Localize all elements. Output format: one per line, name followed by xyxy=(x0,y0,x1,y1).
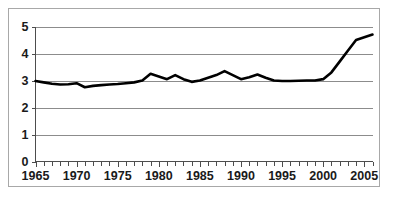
x-tick-label-1985: 1985 xyxy=(186,169,214,183)
x-tick-label-1995: 1995 xyxy=(268,169,296,183)
x-tick-label-1990: 1990 xyxy=(227,169,255,183)
y-tick-label-4: 4 xyxy=(22,47,29,61)
x-tick-label-2000: 2000 xyxy=(309,169,337,183)
x-axis-ticks xyxy=(37,162,374,167)
y-axis-tick-labels: 012345 xyxy=(22,20,29,169)
data-line-1 xyxy=(36,35,373,88)
line-chart: 012345 196519701975198019851990199520002… xyxy=(0,0,393,198)
y-tick-label-0: 0 xyxy=(22,155,29,169)
data-series xyxy=(36,35,373,88)
axes xyxy=(36,27,373,162)
y-tick-label-1: 1 xyxy=(22,128,29,142)
x-tick-label-1970: 1970 xyxy=(63,169,91,183)
gridlines xyxy=(36,28,373,136)
y-tick-label-5: 5 xyxy=(22,20,29,34)
x-tick-label-1965: 1965 xyxy=(22,169,50,183)
x-tick-label-1980: 1980 xyxy=(145,169,173,183)
y-tick-label-2: 2 xyxy=(22,101,29,115)
x-tick-label-1975: 1975 xyxy=(104,169,132,183)
chart-figure: 012345 196519701975198019851990199520002… xyxy=(0,0,393,198)
x-tick-label-2005: 2005 xyxy=(350,169,378,183)
x-axis-tick-labels: 196519701975198019851990199520002005 xyxy=(22,169,379,183)
y-tick-label-3: 3 xyxy=(22,74,29,88)
